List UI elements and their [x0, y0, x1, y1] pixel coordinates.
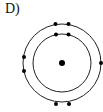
electron [54, 33, 58, 37]
electron [67, 102, 71, 106]
nucleus [59, 60, 65, 66]
bohr-diagram [0, 0, 103, 112]
electron [54, 102, 58, 106]
electron [54, 22, 58, 26]
electron [22, 55, 26, 59]
electron [67, 33, 71, 37]
electron [67, 22, 71, 26]
electron [99, 61, 103, 65]
electron [22, 69, 26, 73]
